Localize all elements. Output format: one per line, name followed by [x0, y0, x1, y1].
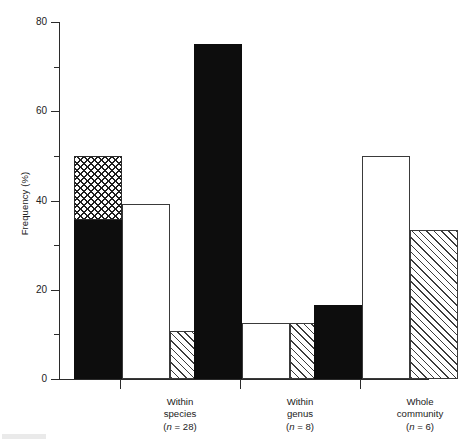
x-axis-line — [59, 379, 429, 380]
y-tick-label-20: 20 — [7, 285, 47, 295]
x-category-label-3: Whole community (n = 6) — [345, 396, 462, 433]
bar-group1-open — [122, 204, 170, 379]
bar-group3-hatched — [410, 230, 458, 379]
y-tick-10 — [54, 334, 60, 335]
y-tick-50 — [54, 156, 60, 157]
y-tick-80 — [51, 22, 60, 23]
y-tick-label-0: 0 — [7, 374, 47, 384]
x-category-3-n-symbol: n — [409, 421, 414, 432]
bar-group1-crosshatch — [74, 156, 122, 220]
bar-group1-solid — [74, 220, 122, 379]
y-tick-20 — [51, 290, 60, 291]
x-category-3-line1: Whole — [345, 396, 462, 408]
x-category-3-line2: community — [345, 408, 462, 420]
x-category-3-n-value: = 6 — [417, 421, 431, 432]
y-tick-60 — [51, 111, 60, 112]
x-category-2-n-symbol: n — [289, 421, 294, 432]
y-tick-30 — [54, 245, 60, 246]
x-category-2-n-value: = 8 — [297, 421, 311, 432]
x-tick-group-2 — [240, 380, 241, 389]
bar-group3-open — [362, 156, 410, 379]
y-tick-40 — [51, 201, 60, 202]
x-tick-group-3 — [360, 380, 361, 389]
y-tick-0 — [51, 379, 60, 380]
plot-area: 80 60 40 20 0 Within — [60, 22, 424, 379]
y-tick-label-80: 80 — [7, 17, 47, 27]
y-tick-70 — [54, 67, 60, 68]
bar-group2-solid — [194, 44, 242, 379]
y-tick-label-60: 60 — [7, 106, 47, 116]
scan-artifact — [2, 434, 46, 439]
x-tick-group-1 — [120, 380, 121, 389]
y-tick-label-40: 40 — [7, 196, 47, 206]
x-category-1-n-value: = 28 — [175, 421, 194, 432]
x-category-1-n-symbol: n — [167, 421, 172, 432]
bar-group3-solid — [314, 305, 362, 380]
x-category-3-n: (n = 6) — [345, 421, 462, 433]
bar-group2-open — [242, 323, 290, 379]
